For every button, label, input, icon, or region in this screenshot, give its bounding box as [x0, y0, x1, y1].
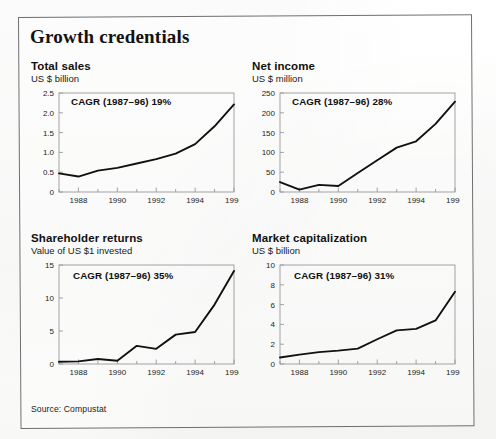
panel-title: Net income: [252, 60, 460, 72]
svg-text:1996: 1996: [446, 196, 460, 205]
chart-panel-market-capitalization: Market capitalization US $ billion 02468…: [252, 232, 460, 390]
svg-text:200: 200: [262, 109, 276, 118]
panel-subtitle: US $ billion: [31, 73, 239, 84]
svg-text:1988: 1988: [291, 368, 309, 377]
chart-panel-net-income: Net income US $ million 0501001502002501…: [252, 60, 460, 218]
panel-subtitle: US $ million: [252, 73, 460, 84]
plot-area-shareholder-returns: 05101519881990199219941996 CAGR (1987–96…: [31, 260, 239, 386]
cagr-annotation: CAGR (1987–96) 28%: [292, 96, 392, 107]
svg-text:1992: 1992: [368, 196, 386, 205]
svg-text:1992: 1992: [147, 368, 165, 377]
svg-text:0: 0: [50, 360, 55, 369]
svg-text:1992: 1992: [147, 196, 165, 205]
svg-text:0: 0: [50, 188, 55, 197]
svg-text:1990: 1990: [329, 368, 347, 377]
panel-title: Total sales: [31, 60, 239, 72]
plot-area-total-sales: 00.51.01.52.02.519881990199219941996 CAG…: [31, 88, 239, 214]
panel-title: Shareholder returns: [31, 232, 239, 244]
svg-text:10: 10: [45, 294, 54, 303]
svg-text:1990: 1990: [108, 196, 126, 205]
cagr-annotation: CAGR (1987–96) 19%: [71, 96, 171, 107]
panel-subtitle: Value of US $1 invested: [31, 245, 239, 256]
svg-text:2.0: 2.0: [43, 109, 55, 118]
svg-text:2.5: 2.5: [43, 89, 55, 98]
svg-text:1994: 1994: [407, 196, 425, 205]
svg-text:1994: 1994: [186, 368, 204, 377]
svg-text:1996: 1996: [225, 196, 239, 205]
chart-panel-total-sales: Total sales US $ billion 00.51.01.52.02.…: [31, 60, 239, 218]
plot-area-net-income: 05010015020025019881990199219941996 CAGR…: [252, 88, 460, 214]
figure-page: Growth credentials Total sales US $ bill…: [0, 0, 496, 439]
svg-text:0: 0: [271, 188, 276, 197]
svg-text:1996: 1996: [446, 368, 460, 377]
svg-text:2: 2: [271, 340, 276, 349]
svg-text:6: 6: [271, 301, 276, 310]
svg-text:1994: 1994: [186, 196, 204, 205]
cagr-annotation: CAGR (1987–96) 35%: [73, 270, 173, 281]
chart-panel-shareholder-returns: Shareholder returns Value of US $1 inves…: [31, 232, 239, 390]
cagr-annotation: CAGR (1987–96) 31%: [294, 270, 394, 281]
svg-text:1990: 1990: [108, 368, 126, 377]
page-title: Growth credentials: [30, 26, 190, 48]
source-note: Source: Compustat: [31, 404, 106, 414]
svg-text:100: 100: [262, 148, 276, 157]
svg-text:15: 15: [45, 261, 54, 270]
plot-area-market-capitalization: 024681019881990199219941996 CAGR (1987–9…: [252, 260, 460, 386]
svg-text:1992: 1992: [368, 368, 386, 377]
svg-text:250: 250: [262, 89, 276, 98]
svg-text:1.0: 1.0: [43, 148, 55, 157]
svg-text:5: 5: [50, 327, 55, 336]
svg-text:4: 4: [271, 320, 276, 329]
svg-text:1996: 1996: [225, 368, 239, 377]
svg-text:1988: 1988: [70, 196, 88, 205]
svg-text:1988: 1988: [291, 196, 309, 205]
svg-text:8: 8: [271, 281, 276, 290]
panel-title: Market capitalization: [252, 232, 460, 244]
svg-text:10: 10: [266, 261, 275, 270]
svg-text:1994: 1994: [407, 368, 425, 377]
svg-text:0.5: 0.5: [43, 168, 55, 177]
svg-text:1.5: 1.5: [43, 129, 55, 138]
svg-text:50: 50: [266, 168, 275, 177]
svg-text:0: 0: [271, 360, 276, 369]
svg-text:1988: 1988: [70, 368, 88, 377]
svg-text:1990: 1990: [329, 196, 347, 205]
panel-subtitle: US $ billion: [252, 245, 460, 256]
svg-text:150: 150: [262, 129, 276, 138]
